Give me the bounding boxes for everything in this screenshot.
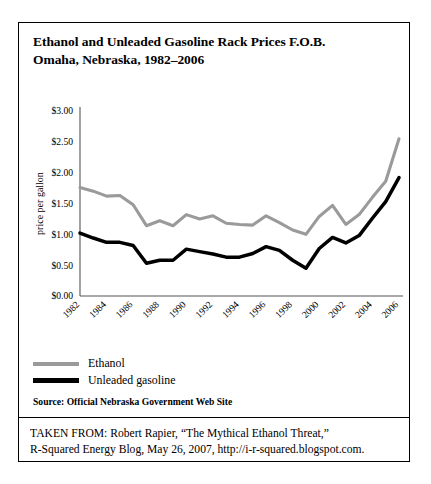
legend-item-ethanol: Ethanol — [33, 355, 373, 372]
attribution-line-1: TAKEN FROM: Robert Rapier, “The Mythical… — [30, 426, 402, 442]
x-tick-label: 2000 — [299, 298, 320, 319]
y-axis-tick-labels: $3.00$2.50$2.00$1.50$1.00$0.50$0.00 — [51, 105, 73, 301]
x-tick-label: 1982 — [60, 298, 81, 319]
source-note: Source: Official Nebraska Government Web… — [33, 396, 232, 407]
x-tick-label: 1996 — [246, 298, 267, 319]
x-tick-label: 2002 — [326, 298, 347, 319]
x-tick-label: 1992 — [193, 298, 214, 319]
x-tick-label: 1988 — [140, 298, 161, 319]
x-tick-label: 1986 — [113, 298, 134, 319]
legend-label-ethanol: Ethanol — [88, 358, 125, 370]
x-tick-label: 2006 — [379, 298, 400, 319]
legend-swatch-unleaded-gasoline-icon — [33, 378, 79, 383]
legend-item-unleaded-gasoline: Unleaded gasoline — [33, 372, 373, 389]
x-tick-label: 1994 — [220, 298, 241, 319]
chart-svg: $3.00$2.50$2.00$1.50$1.00$0.50$0.00 1982… — [19, 23, 411, 353]
y-tick-label: $2.50 — [51, 136, 73, 147]
y-tick-label: $0.50 — [51, 260, 73, 271]
y-tick-label: $1.00 — [51, 229, 73, 240]
y-tick-label: $3.00 — [51, 105, 73, 116]
x-tick-label: 2004 — [352, 298, 373, 319]
x-tick-label: 1990 — [166, 298, 187, 319]
y-tick-label: $0.00 — [51, 290, 73, 301]
y-tick-label: $2.00 — [51, 167, 73, 178]
attribution-note: TAKEN FROM: Robert Rapier, “The Mythical… — [30, 426, 402, 459]
series-line-ethanol — [80, 139, 399, 235]
x-tick-label: 1998 — [273, 298, 294, 319]
figure-container: Ethanol and Unleaded Gasoline Rack Price… — [18, 22, 410, 462]
y-axis-title: price per gallon — [34, 172, 45, 235]
y-tick-label: $1.50 — [51, 198, 73, 209]
legend-label-unleaded-gasoline: Unleaded gasoline — [88, 375, 175, 387]
chart-legend: Ethanol Unleaded gasoline — [33, 355, 373, 389]
figure-divider — [19, 417, 409, 418]
attribution-line-2: R-Squared Energy Blog, May 26, 2007, htt… — [30, 442, 402, 458]
x-tick-label: 1984 — [87, 298, 108, 319]
x-axis-tick-labels: 1982198419861988199019921994199619982000… — [60, 298, 400, 319]
legend-swatch-ethanol-icon — [33, 362, 79, 366]
